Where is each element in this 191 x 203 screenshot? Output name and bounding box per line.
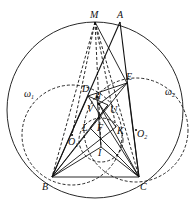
segment-ME — [95, 22, 127, 83]
label-B: B — [42, 181, 48, 192]
label-O2: O2 — [137, 128, 147, 140]
label-F: F — [96, 122, 104, 133]
label-omega1: ω1 — [24, 88, 34, 100]
label-H: H — [94, 92, 102, 101]
label-A: A — [116, 9, 124, 20]
label-K: K — [116, 125, 125, 136]
segment-MC — [95, 22, 139, 177]
segment-MO1 — [72, 22, 95, 135]
segment-BK — [52, 127, 116, 177]
label-C: C — [140, 181, 147, 192]
label-I: I — [97, 147, 102, 158]
label-O1: O1 — [68, 136, 78, 148]
segment-CV — [99, 104, 139, 177]
label-M: M — [89, 9, 99, 20]
label-D: D — [81, 83, 90, 94]
label-E: E — [125, 71, 132, 82]
label-U: U — [110, 104, 118, 115]
label-L: L — [81, 122, 88, 133]
segment-DE — [88, 83, 127, 96]
circumcircle — [7, 22, 183, 198]
label-omega2: ω2 — [165, 86, 175, 98]
point-V — [98, 103, 101, 106]
segment-MB — [52, 22, 95, 177]
segment-BI — [52, 147, 101, 177]
geometry-diagram: M A D E H V U L F K O1 O2 I B C ω1 ω2 — [0, 0, 191, 203]
